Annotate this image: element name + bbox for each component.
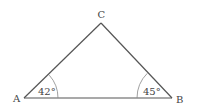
- side-ac: [24, 23, 101, 98]
- triangle-diagram: A B C 42° 45°: [0, 0, 200, 108]
- vertex-label-a: A: [12, 93, 21, 104]
- vertex-label-c: C: [98, 9, 106, 20]
- angle-label-a: 42°: [38, 86, 56, 97]
- side-bc: [101, 23, 172, 98]
- angle-label-b: 45°: [143, 86, 161, 97]
- vertex-label-b: B: [176, 94, 183, 105]
